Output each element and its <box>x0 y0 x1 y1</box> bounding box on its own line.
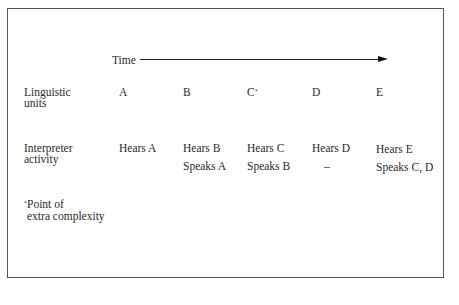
hears-e: Hears E <box>376 143 413 155</box>
unit-d: D <box>312 86 320 98</box>
hears-a: Hears A <box>119 142 156 154</box>
speaks-a: Speaks A <box>183 160 226 172</box>
unit-e: E <box>376 86 383 98</box>
unit-c: C* <box>247 86 258 98</box>
unit-b: B <box>183 86 191 98</box>
linguistic-units-label-2: units <box>24 97 46 109</box>
time-label: Time <box>112 54 136 66</box>
speaks-none-dash: – <box>324 160 330 172</box>
speaks-b: Speaks B <box>247 160 290 172</box>
time-arrow-line <box>140 59 380 60</box>
hears-c: Hears C <box>247 142 284 154</box>
interpreter-activity-label-2: activity <box>24 153 59 165</box>
footnote-asterisk: * <box>24 200 27 206</box>
arrow-right-icon <box>378 56 388 62</box>
hears-d: Hears D <box>312 142 350 154</box>
footnote-line-1: *Point of <box>24 198 64 210</box>
asterisk-mark: * <box>255 88 258 94</box>
unit-a: A <box>119 86 127 98</box>
speaks-c-d: Speaks C, D <box>376 161 433 173</box>
footnote-line-2: extra complexity <box>27 210 105 222</box>
hears-b: Hears B <box>183 142 220 154</box>
